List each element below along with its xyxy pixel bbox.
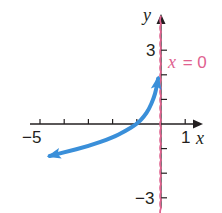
y-tick-label-3: 3 [146, 41, 155, 60]
y-axis [157, 14, 168, 208]
asymptote-line [160, 16, 161, 213]
y-tick-label-neg3: −3 [135, 189, 154, 208]
x-axis [30, 119, 203, 129]
x-tick-label-neg5: −5 [22, 128, 41, 147]
asymptote-label-var: x [167, 52, 176, 72]
graph: y 3 −3 −5 1 x x = 0 [0, 0, 222, 213]
asymptote-label: x = 0 [167, 52, 207, 72]
function-curve [50, 78, 158, 155]
x-axis-label: x [195, 128, 204, 148]
asymptote-label-eq: = 0 [178, 53, 207, 72]
x-tick-label-1: 1 [181, 128, 190, 147]
y-axis-label: y [141, 5, 151, 25]
